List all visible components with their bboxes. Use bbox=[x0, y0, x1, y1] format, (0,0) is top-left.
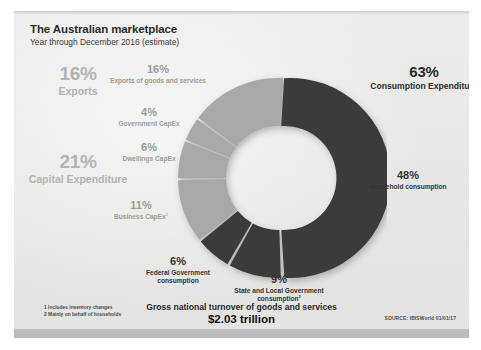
label-consumption-expenditure: 63% Consumption Expenditure bbox=[368, 63, 469, 91]
label-state-local-consumption-pct: 9% bbox=[218, 273, 340, 286]
label-dwellings-capex: 6% Dwellings CapEx bbox=[112, 141, 186, 163]
label-exports-goods-services-desc: Exports of goods and services bbox=[110, 77, 206, 85]
label-household-consumption: 48% Household consumption bbox=[362, 169, 454, 191]
label-government-capex-desc: Government CapEx bbox=[112, 120, 186, 128]
total-caption: Gross national turnover of goods and ser… bbox=[14, 302, 469, 312]
label-federal-consumption: 6% Federal Government consumption bbox=[137, 255, 219, 285]
card-bottom-bar bbox=[14, 329, 469, 338]
page-title: The Australian marketplace bbox=[30, 23, 179, 35]
label-exports-desc: Exports bbox=[32, 85, 124, 97]
label-dwellings-capex-pct: 6% bbox=[112, 141, 186, 154]
label-exports-goods-services: 16% Exports of goods and services bbox=[110, 63, 206, 85]
label-federal-consumption-pct: 6% bbox=[137, 255, 219, 268]
label-business-capex-pct: 11% bbox=[96, 199, 186, 212]
label-business-capex-desc: Business CapEx1 bbox=[96, 213, 186, 221]
card-top-edge bbox=[14, 11, 469, 14]
label-exports-goods-services-pct: 16% bbox=[110, 63, 206, 76]
label-dwellings-capex-desc: Dwellings CapEx bbox=[112, 155, 186, 163]
label-household-consumption-pct: 48% bbox=[362, 169, 454, 182]
label-state-local-consumption-desc: State and Local Government consumption2 bbox=[218, 287, 340, 303]
source-text: SOURCE: IBISWorld 01/01/17 bbox=[385, 316, 456, 321]
chart-header: The Australian marketplace Year through … bbox=[30, 23, 179, 47]
label-consumption-expenditure-desc: Consumption Expenditure bbox=[368, 81, 469, 91]
label-business-capex: 11% Business CapEx1 bbox=[96, 199, 186, 221]
infographic-card: The Australian marketplace Year through … bbox=[14, 11, 469, 338]
footnote-marker-2: 2 bbox=[299, 294, 301, 299]
chart-subtitle: Year through December 2016 (estimate) bbox=[30, 37, 179, 47]
label-government-capex-pct: 4% bbox=[112, 106, 186, 119]
footnote-marker-1: 1 bbox=[166, 212, 168, 217]
total-block: Gross national turnover of goods and ser… bbox=[14, 302, 469, 325]
label-government-capex: 4% Government CapEx bbox=[112, 106, 186, 128]
label-federal-consumption-desc: Federal Government consumption bbox=[137, 269, 219, 285]
label-capital-expenditure-desc: Capital Expenditure bbox=[22, 173, 134, 185]
label-consumption-expenditure-pct: 63% bbox=[368, 63, 469, 81]
label-state-local-consumption: 9% State and Local Government consumptio… bbox=[218, 273, 340, 303]
label-household-consumption-desc: Household consumption bbox=[362, 183, 454, 191]
